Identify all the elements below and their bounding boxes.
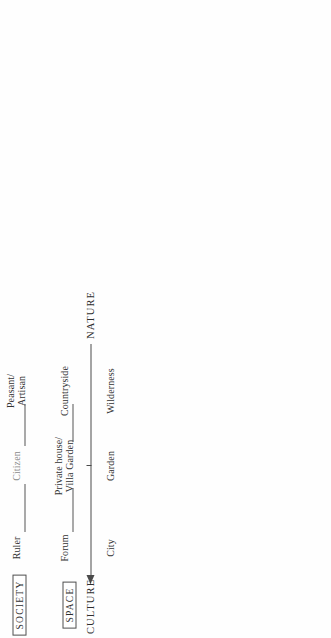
space-connector-right [72,404,73,442]
diagram-stage: CULTURE NATURE City Garden Wilderness SP… [0,0,331,638]
society-connector-left [24,484,25,532]
bottom-axis-nature-label: NATURE [84,291,95,339]
bottom-axis-line [90,344,91,576]
society-connector-right [24,404,25,446]
spectrum-label-garden: Garden [104,451,115,481]
space-value-countryside: Countryside [58,366,69,416]
society-value-peasant-artisan: Peasant/ Artisan [4,374,26,408]
diagram-canvas: CULTURE NATURE City Garden Wilderness SP… [0,0,331,638]
space-value-forum: Forum [58,534,69,561]
category-box-society: SOCIETY [12,574,26,635]
bottom-axis-tick-garden [86,465,91,466]
spectrum-label-city: City [104,539,115,557]
spectrum-label-wilderness: Wilderness [104,368,115,414]
bottom-axis-culture-label: CULTURE [84,579,95,634]
society-value-ruler: Ruler [10,537,21,560]
society-value-citizen: Citizen [10,451,21,481]
space-value-private-house: Private house/ Villa Garden [52,437,74,495]
space-connector-left [72,488,73,532]
category-box-space: SPACE [62,581,76,628]
